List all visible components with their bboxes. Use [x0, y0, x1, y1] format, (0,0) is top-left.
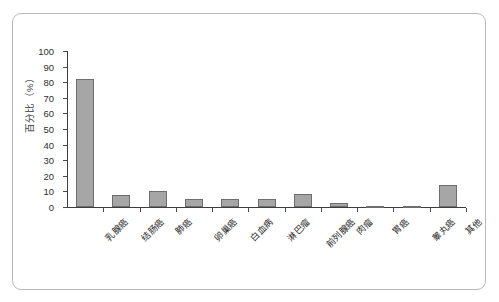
bar [366, 206, 384, 208]
x-category-label: 肺癌 [172, 215, 194, 237]
y-tick-mark [63, 51, 67, 52]
y-tick-mark [63, 67, 67, 68]
x-category-label: 白血病 [247, 215, 276, 244]
y-tick-mark [63, 145, 67, 146]
bar [330, 203, 348, 207]
y-tick-mark [63, 207, 67, 208]
x-tick-mark [248, 208, 249, 212]
x-category-label: 乳腺癌 [102, 215, 131, 244]
y-tick-label: 70 [28, 92, 54, 103]
x-tick-mark [103, 208, 104, 212]
bar [439, 185, 457, 207]
x-tick-mark [140, 208, 141, 212]
x-tick-mark [430, 208, 431, 212]
y-tick-mark [63, 160, 67, 161]
bar [258, 199, 276, 207]
x-category-label: 卵巢癌 [211, 215, 240, 244]
bar [221, 199, 239, 207]
y-axis-tick-labels: 0102030405060708090100 [26, 0, 54, 302]
bar [76, 79, 94, 207]
x-category-label: 结肠癌 [138, 215, 167, 244]
bar-chart: 百分比（%） 0102030405060708090100 乳腺癌结肠癌肺癌卵巢… [0, 0, 499, 302]
bar [112, 195, 130, 207]
x-category-label: 肉瘤 [353, 215, 375, 237]
bar [294, 194, 312, 207]
x-tick-mark [285, 208, 286, 212]
bar [149, 191, 167, 207]
bar [185, 199, 203, 207]
y-tick-label: 100 [28, 46, 54, 57]
y-tick-mark [63, 129, 67, 130]
y-tick-mark [63, 82, 67, 83]
y-tick-mark [63, 176, 67, 177]
y-tick-mark [63, 98, 67, 99]
x-tick-mark [466, 208, 467, 212]
x-tick-mark [212, 208, 213, 212]
y-tick-label: 60 [28, 108, 54, 119]
y-tick-label: 20 [28, 170, 54, 181]
y-tick-mark [63, 191, 67, 192]
y-axis-line [67, 51, 68, 208]
y-tick-label: 50 [28, 124, 54, 135]
bar [403, 206, 421, 208]
y-tick-label: 40 [28, 139, 54, 150]
y-tick-label: 80 [28, 77, 54, 88]
y-tick-label: 30 [28, 155, 54, 166]
x-category-label: 胃癌 [390, 215, 412, 237]
x-tick-mark [393, 208, 394, 212]
x-tick-mark [321, 208, 322, 212]
x-category-label: 睾丸癌 [429, 215, 458, 244]
x-tick-mark [357, 208, 358, 212]
x-category-label: 前列腺癌 [323, 215, 358, 250]
y-tick-label: 0 [28, 202, 54, 213]
x-tick-mark [176, 208, 177, 212]
y-tick-label: 90 [28, 61, 54, 72]
y-tick-label: 10 [28, 186, 54, 197]
y-tick-mark [63, 113, 67, 114]
x-category-label: 淋巴瘤 [284, 215, 313, 244]
x-category-label: 其他 [462, 215, 484, 237]
